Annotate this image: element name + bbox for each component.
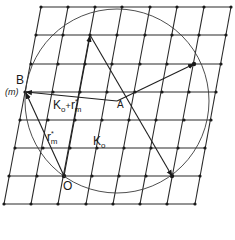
- label-m: (m): [5, 88, 19, 97]
- r-subscript: m: [75, 105, 82, 114]
- vectors: [26, 35, 194, 176]
- vector-a-to-node: [117, 64, 194, 101]
- label-a: A: [117, 100, 124, 110]
- r-subscript: m: [51, 137, 58, 146]
- r-superscript: *: [75, 98, 78, 105]
- k-symbol: K: [53, 98, 61, 112]
- r-superscript: *: [51, 130, 54, 137]
- label-k-o: Ko: [93, 135, 105, 150]
- label-r-m: r*m: [47, 130, 57, 146]
- plus-sign: +: [65, 101, 70, 111]
- k-subscript: o: [101, 141, 105, 150]
- label-k-plus-r: Ko+ r*m: [53, 98, 81, 114]
- line-diffracted: [90, 35, 172, 176]
- k-symbol: K: [93, 134, 101, 148]
- label-o: O: [63, 180, 72, 192]
- label-b: B: [16, 74, 24, 86]
